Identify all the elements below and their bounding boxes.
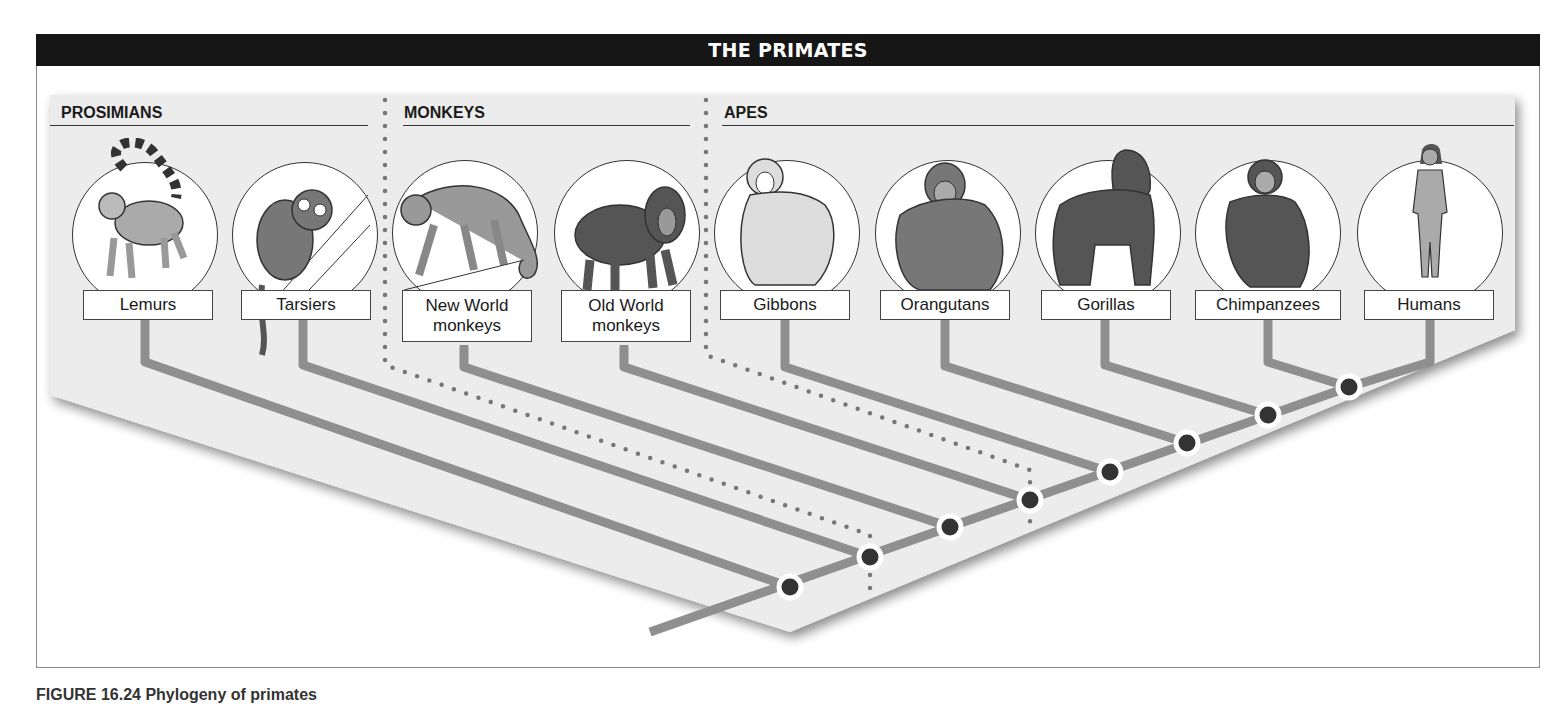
label-new-world-monkeys: New World monkeys (402, 290, 532, 342)
old-world-monkey-icon (565, 160, 695, 300)
lemur-icon (84, 138, 204, 288)
label-chimpanzees: Chimpanzees (1195, 290, 1341, 320)
label-gibbons: Gibbons (720, 290, 850, 320)
new-world-monkey-icon (394, 165, 544, 295)
label-old-world-monkeys: Old World monkeys (561, 290, 691, 342)
node (859, 546, 881, 568)
node (1257, 404, 1279, 426)
label-line: monkeys (433, 316, 501, 336)
group-rule (50, 125, 368, 126)
label-lemurs: Lemurs (83, 290, 213, 320)
label-line: monkeys (592, 316, 660, 336)
label-gorillas: Gorillas (1041, 290, 1171, 320)
label-line: Old World (588, 296, 663, 316)
group-prosimians: PROSIMIANS (61, 104, 162, 122)
human-icon (1400, 142, 1460, 292)
label-line: New World (426, 296, 509, 316)
group-monkeys: MONKEYS (404, 104, 485, 122)
gorilla-icon (1040, 145, 1180, 295)
orangutan-icon (880, 155, 1020, 295)
node (939, 516, 961, 538)
node (779, 576, 801, 598)
label-tarsiers: Tarsiers (241, 290, 371, 320)
node (1176, 432, 1198, 454)
label-humans: Humans (1364, 290, 1494, 320)
group-rule (403, 125, 690, 126)
label-orangutans: Orangutans (880, 290, 1010, 320)
chimpanzee-icon (1205, 152, 1335, 292)
gibbon-icon (725, 155, 855, 295)
group-apes: APES (724, 104, 768, 122)
group-rule (722, 125, 1514, 126)
figure-caption: FIGURE 16.24 Phylogeny of primates (36, 686, 317, 704)
node (1099, 461, 1121, 483)
node (1338, 376, 1360, 398)
tarsier-icon (240, 165, 370, 365)
node (1019, 489, 1041, 511)
